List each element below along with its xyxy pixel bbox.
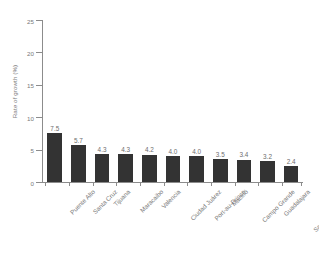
x-axis-tick bbox=[45, 182, 46, 186]
bar-group[interactable]: 4.3 bbox=[95, 20, 110, 182]
y-axis-tick-label: 15 bbox=[27, 82, 34, 89]
bar-group[interactable]: 4.2 bbox=[142, 20, 157, 182]
bar-group[interactable]: 3.5 bbox=[213, 20, 228, 182]
bar[interactable] bbox=[95, 154, 110, 182]
y-axis-title: Rate of growth (%) bbox=[8, 0, 22, 182]
x-axis-label: Maracaibo bbox=[138, 188, 164, 214]
bar-value-label: 4.3 bbox=[121, 146, 130, 153]
bar[interactable] bbox=[118, 154, 133, 182]
bar[interactable] bbox=[213, 159, 228, 182]
bar[interactable] bbox=[142, 155, 157, 182]
bar-value-label: 2.4 bbox=[287, 158, 296, 165]
x-axis-tick bbox=[164, 182, 165, 186]
bar-value-label: 3.2 bbox=[263, 153, 272, 160]
x-axis-tick bbox=[301, 182, 302, 186]
bar-value-label: 4.2 bbox=[145, 146, 154, 153]
y-axis-tick: 15 bbox=[36, 85, 42, 86]
y-axis-tick-label: 10 bbox=[27, 114, 34, 121]
x-axis-tick bbox=[187, 182, 188, 186]
plot-area: 7.55.74.34.34.24.04.03.53.43.22.4 bbox=[43, 20, 303, 182]
y-axis-title-text: Rate of growth (%) bbox=[12, 64, 19, 117]
x-axis-label: Santa Fé De Bogotá bbox=[312, 188, 319, 233]
bar[interactable] bbox=[71, 145, 86, 182]
bar-group[interactable]: 7.5 bbox=[47, 20, 62, 182]
y-axis-tick: 20 bbox=[36, 52, 42, 53]
bar[interactable] bbox=[284, 166, 299, 182]
y-axis-tick: 0 bbox=[36, 182, 42, 183]
y-axis-tick: 10 bbox=[36, 117, 42, 118]
bar-group[interactable]: 4.3 bbox=[118, 20, 133, 182]
bar-group[interactable]: 3.2 bbox=[260, 20, 275, 182]
x-axis-tick bbox=[93, 182, 94, 186]
x-axis-tick bbox=[211, 182, 212, 186]
y-axis-tick-label: 0 bbox=[31, 179, 34, 186]
bar[interactable] bbox=[260, 161, 275, 182]
y-axis-tick: 25 bbox=[36, 20, 42, 21]
bar-group[interactable]: 3.4 bbox=[237, 20, 252, 182]
bar[interactable] bbox=[189, 156, 204, 182]
x-axis-tick bbox=[235, 182, 236, 186]
bar-group[interactable]: 2.4 bbox=[284, 20, 299, 182]
bar-group[interactable]: 4.0 bbox=[189, 20, 204, 182]
y-axis-tick: 5 bbox=[36, 150, 42, 151]
x-axis-label: Maceió bbox=[230, 188, 249, 207]
x-axis-tick bbox=[140, 182, 141, 186]
bar-chart: Rate of growth (%) 0510152025 7.55.74.34… bbox=[0, 0, 319, 257]
x-axis-tick bbox=[116, 182, 117, 186]
bar-value-label: 3.4 bbox=[239, 151, 248, 158]
x-axis-tick bbox=[69, 182, 70, 186]
x-axis-line bbox=[42, 182, 303, 183]
bar-group[interactable]: 4.0 bbox=[166, 20, 181, 182]
bar-value-label: 3.5 bbox=[216, 151, 225, 158]
bar-value-label: 4.0 bbox=[169, 148, 178, 155]
bar-value-label: 7.5 bbox=[50, 125, 59, 132]
x-axis-tick bbox=[282, 182, 283, 186]
y-axis-tick-label: 20 bbox=[27, 49, 34, 56]
bar-group[interactable]: 5.7 bbox=[71, 20, 86, 182]
y-axis-tick-label: 5 bbox=[31, 147, 34, 154]
bar-value-label: 5.7 bbox=[74, 137, 83, 144]
bar-value-label: 4.0 bbox=[192, 148, 201, 155]
y-axis-tick-label: 25 bbox=[27, 17, 34, 24]
bar[interactable] bbox=[47, 133, 62, 182]
x-axis-tick bbox=[258, 182, 259, 186]
bar-value-label: 4.3 bbox=[98, 146, 107, 153]
bar[interactable] bbox=[237, 160, 252, 182]
bar[interactable] bbox=[166, 156, 181, 182]
